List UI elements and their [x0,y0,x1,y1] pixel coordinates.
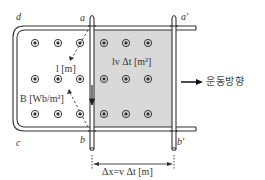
motion-direction-arrow [181,79,203,85]
label-c: c [16,138,20,148]
length-label: l [m] [56,64,76,74]
field-label: B [Wb/m²] [20,94,64,104]
length-leader-arrowheads [67,56,74,94]
label-a: a [80,13,85,23]
rod-a-prime-b-prime [172,16,176,151]
label-b: b [80,135,85,145]
induction-diagram: d a a′ c b b′ l [m] B [Wb/m²] lv Δt [m²]… [0,0,265,180]
motion-direction-label: 운동방향 [206,77,244,87]
label-d: d [16,12,21,22]
swept-area [94,30,172,127]
area-label: lv Δt [m²] [112,57,151,67]
diagram-canvas [0,0,265,180]
label-b-prime: b′ [177,137,184,147]
label-a-prime: a′ [181,12,188,22]
rod-ab [90,16,94,151]
displacement-label: Δx=v Δt [m] [102,167,153,177]
